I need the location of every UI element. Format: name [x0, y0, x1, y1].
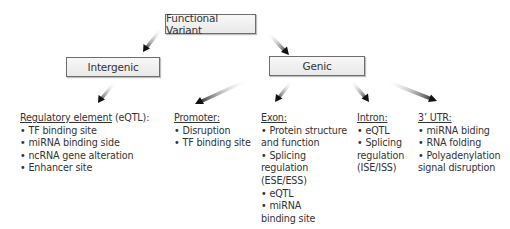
category-heading: Promoter:	[174, 112, 220, 123]
category-heading: Exon:	[261, 112, 287, 123]
list-item: • miRNA binding side	[20, 137, 180, 150]
list-item: • miRNA biding	[418, 125, 510, 138]
list-item: • TF binding site	[174, 137, 256, 150]
arrow-genic-to-exon	[275, 81, 292, 102]
root-node-label: Functional Variant	[166, 12, 255, 36]
arrow-genic-to-utr	[386, 81, 437, 102]
arrow-genic-to-intron	[351, 81, 369, 102]
list-item: • Splicing regulation (ISE/ISS)	[357, 137, 413, 175]
list-item: • Polyadenylation signal disruption	[418, 150, 510, 175]
category-exon: Exon: • Protein structure and function •…	[261, 112, 349, 225]
branch-node-genic: Genic	[269, 56, 365, 76]
category-heading: Regulatory element	[20, 112, 112, 123]
list-item: • miRNA binding site	[261, 200, 321, 225]
category-heading-suffix: (eQTL):	[112, 112, 149, 123]
list-item: • ncRNA gene alteration	[20, 150, 180, 163]
branch-node-label: Genic	[303, 60, 332, 72]
category-regulatory-element: Regulatory element (eQTL): • TF binding …	[20, 112, 180, 175]
arrow-intergenic-to-regulatory	[98, 82, 115, 103]
list-item: • eQTL	[261, 188, 349, 201]
list-item: • Protein structure and function	[261, 125, 349, 150]
list-item: • Splicing regulation (ESE/ESS)	[261, 150, 349, 188]
arrow-root-to-genic	[268, 33, 289, 55]
list-item: • eQTL	[357, 125, 413, 138]
arrow-to-promoter	[195, 80, 248, 104]
branch-node-label: Intergenic	[88, 61, 139, 73]
branch-node-intergenic: Intergenic	[66, 57, 160, 77]
list-item: • Enhancer site	[20, 162, 180, 175]
list-item: • TF binding site	[20, 125, 180, 138]
root-node-functional-variant: Functional Variant	[165, 14, 256, 34]
list-item: • Disruption	[174, 125, 256, 138]
list-item: • RNA folding	[418, 137, 510, 150]
category-3-utr: 3’ UTR: • miRNA biding • RNA folding • P…	[418, 112, 510, 175]
category-promoter: Promoter: • Disruption • TF binding site	[174, 112, 256, 150]
category-intron: Intron: • eQTL • Splicing regulation (IS…	[357, 112, 413, 175]
arrow-root-to-intergenic	[143, 28, 162, 52]
category-heading: Intron:	[357, 112, 388, 123]
category-heading: 3’ UTR:	[418, 112, 452, 123]
